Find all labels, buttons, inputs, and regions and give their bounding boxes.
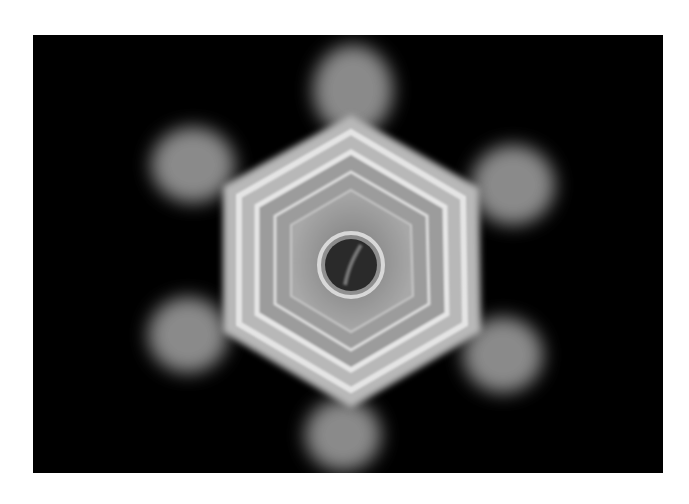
ice-crystal-illustration	[33, 35, 663, 473]
crystal-photo	[33, 35, 663, 473]
